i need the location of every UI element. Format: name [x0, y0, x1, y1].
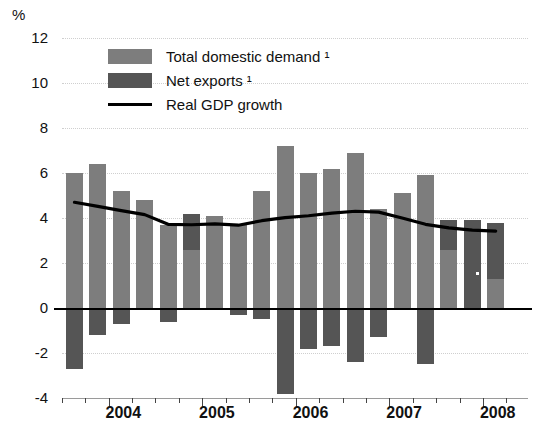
- y-axis-unit-label: %: [12, 6, 25, 23]
- legend-label-nx: Net exports ¹: [166, 72, 252, 89]
- legend-label-gdp: Real GDP growth: [166, 96, 282, 113]
- x-tick: [249, 398, 250, 403]
- x-label-2004: 2004: [106, 404, 142, 422]
- legend-swatch-gdp: [108, 103, 152, 106]
- x-tick: [366, 398, 367, 403]
- y-tick-12: 12: [6, 29, 48, 46]
- legend-item-gdp: Real GDP growth: [108, 94, 329, 114]
- y-tick--2: -2: [6, 344, 48, 361]
- x-tick: [460, 398, 461, 403]
- x-tick: [319, 398, 320, 403]
- x-tick: [413, 398, 414, 403]
- x-label-2005: 2005: [199, 404, 235, 422]
- x-label-2008: 2008: [480, 404, 516, 422]
- x-tick: [506, 398, 507, 403]
- y-axis-tick-labels: 121086420-2-4: [0, 38, 48, 398]
- x-tick: [155, 398, 156, 403]
- x-tick: [132, 398, 133, 403]
- x-label-2007: 2007: [386, 404, 422, 422]
- scan-artifact: [412, 324, 415, 327]
- legend-label-tdd: Total domestic demand ¹: [166, 48, 329, 65]
- y-tick--4: -4: [6, 389, 48, 406]
- x-tick: [179, 398, 180, 403]
- x-tick: [62, 398, 63, 403]
- y-tick-6: 6: [6, 164, 48, 181]
- x-tick: [272, 398, 273, 403]
- x-label-2006: 2006: [293, 404, 329, 422]
- x-tick: [343, 398, 344, 403]
- y-tick-2: 2: [6, 254, 48, 271]
- chart-figure: % 121086420-2-4 20042005200620072008 Tot…: [0, 0, 550, 428]
- legend-swatch-nx: [108, 73, 152, 88]
- x-tick: [436, 398, 437, 403]
- legend: Total domestic demand ¹Net exports ¹Real…: [108, 46, 329, 118]
- scan-artifact: [476, 272, 479, 275]
- x-tick: [85, 398, 86, 403]
- legend-item-nx: Net exports ¹: [108, 70, 329, 90]
- y-tick-8: 8: [6, 119, 48, 136]
- x-tick: [226, 398, 227, 403]
- zero-axis-line: [54, 308, 532, 310]
- y-tick-0: 0: [6, 299, 48, 316]
- gdp-growth-polyline: [75, 202, 496, 231]
- y-tick-10: 10: [6, 74, 48, 91]
- legend-item-tdd: Total domestic demand ¹: [108, 46, 329, 66]
- legend-swatch-tdd: [108, 49, 152, 64]
- y-tick-4: 4: [6, 209, 48, 226]
